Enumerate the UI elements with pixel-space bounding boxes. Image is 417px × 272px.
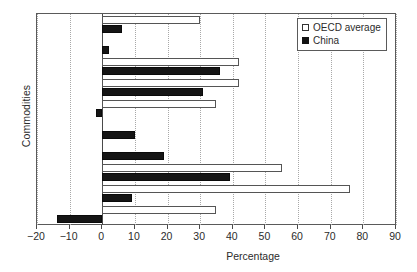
gridline-20 [168, 14, 169, 225]
gridline-10 [135, 14, 136, 225]
legend-item-china: China [302, 34, 381, 47]
x-tick--20 [36, 225, 37, 229]
x-tick-label--10: −10 [60, 230, 78, 242]
bar-cotton-china [102, 152, 164, 160]
legend-label-oecd-average: OECD average [313, 22, 381, 33]
x-tick-label-90: 90 [389, 230, 401, 242]
x-tick-label-40: 40 [226, 230, 238, 242]
bar-wheat-oecd-average [102, 206, 216, 214]
x-tick-label-0: 0 [98, 230, 104, 242]
bar-sugar-oecd-average [102, 164, 282, 172]
bar-sheepmeat-oecd-average [102, 79, 239, 87]
x-tick-0 [101, 225, 102, 229]
x-tick-30 [199, 225, 200, 229]
x-tick-label-60: 60 [291, 230, 303, 242]
x-tick-90 [395, 225, 396, 229]
bar-milk-oecd-average [102, 58, 239, 66]
gridline-90 [396, 14, 397, 225]
gridline-30 [200, 14, 201, 225]
legend-item-oecd-average: OECD average [302, 21, 381, 34]
bar-all-china [102, 25, 122, 33]
bar-crops-china [102, 131, 135, 139]
gridline-40 [233, 14, 234, 225]
x-tick-20 [167, 225, 168, 229]
bar-rice-china [102, 194, 131, 202]
x-tick-label-20: 20 [161, 230, 173, 242]
open-square-icon [302, 24, 309, 31]
x-tick-10 [134, 225, 135, 229]
x-axis-ticks: −20−100102030405060708090 [36, 225, 396, 247]
x-tick-label--20: −20 [27, 230, 45, 242]
gridline--10 [70, 14, 71, 225]
bar-beef-china [96, 109, 103, 117]
x-tick-label-30: 30 [193, 230, 205, 242]
x-tick-70 [330, 225, 331, 229]
gridline--20 [37, 14, 38, 225]
bar-livestock-china [102, 46, 109, 54]
x-tick-label-10: 10 [128, 230, 140, 242]
filled-square-icon [302, 37, 309, 44]
bar-all-oecd-average [102, 16, 200, 24]
legend-label-china: China [313, 35, 339, 46]
x-axis-title: Percentage [108, 250, 398, 262]
x-tick-label-80: 80 [357, 230, 369, 242]
bar-milk-china [102, 67, 219, 75]
x-tick-80 [362, 225, 363, 229]
bar-beef-oecd-average [102, 100, 216, 108]
x-tick-50 [264, 225, 265, 229]
bar-rice-oecd-average [102, 185, 350, 193]
x-tick-label-50: 50 [259, 230, 271, 242]
bar-wheat-china [57, 215, 103, 223]
chart-legend: OECD average China [297, 18, 387, 51]
bar-chart-figure: Commodities alllivestockmilksheepmeatbee… [0, 0, 417, 272]
x-tick-label-70: 70 [324, 230, 336, 242]
bar-sugar-china [102, 173, 229, 181]
bar-sheepmeat-china [102, 88, 203, 96]
x-tick--10 [69, 225, 70, 229]
x-tick-60 [297, 225, 298, 229]
x-tick-40 [232, 225, 233, 229]
gridline-50 [265, 14, 266, 225]
